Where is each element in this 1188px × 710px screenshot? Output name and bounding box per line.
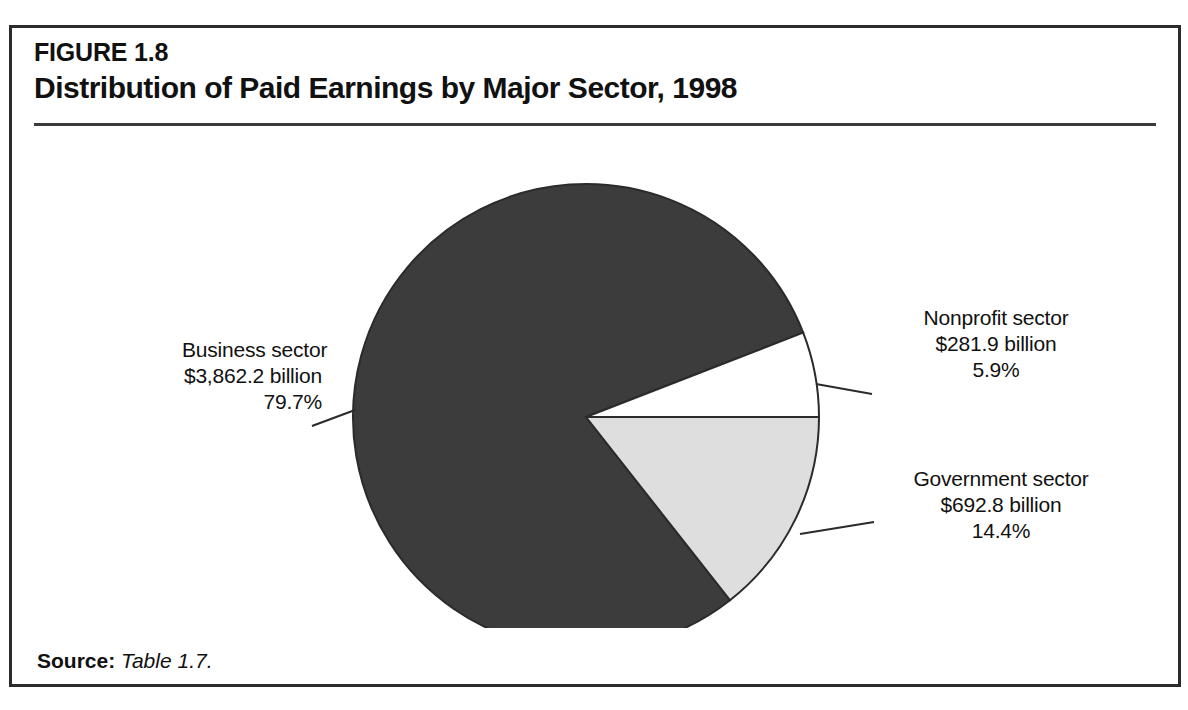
callout-business-sector: Business sector $3,862.2 billion 79.7% xyxy=(182,337,322,415)
callout-government-value: $692.8 billion xyxy=(881,492,1121,518)
callout-government-percent: 14.4% xyxy=(881,518,1121,544)
figure-frame: FIGURE 1.8 Distribution of Paid Earnings… xyxy=(9,25,1181,687)
source-label: Source: xyxy=(37,649,115,672)
title-divider-rule xyxy=(34,123,1156,126)
leader-line-government xyxy=(800,522,874,534)
callout-nonprofit-value: $281.9 billion xyxy=(881,331,1111,357)
callout-nonprofit-sector: Nonprofit sector $281.9 billion 5.9% xyxy=(881,305,1111,383)
pie-chart-area: Business sector $3,862.2 billion 79.7% N… xyxy=(12,128,1178,628)
figure-number: FIGURE 1.8 xyxy=(34,37,1154,68)
callout-business-value: $3,862.2 billion xyxy=(182,363,322,389)
figure-title: Distribution of Paid Earnings by Major S… xyxy=(34,69,1154,107)
source-line: Source: Table 1.7. xyxy=(37,648,213,674)
callout-business-name: Business sector xyxy=(182,337,322,363)
callout-nonprofit-percent: 5.9% xyxy=(881,357,1111,383)
callout-government-name: Government sector xyxy=(881,466,1121,492)
pie-slices-group xyxy=(353,184,819,628)
figure-container: FIGURE 1.8 Distribution of Paid Earnings… xyxy=(0,0,1188,710)
source-value: Table 1.7. xyxy=(121,649,212,672)
callout-government-sector: Government sector $692.8 billion 14.4% xyxy=(881,466,1121,544)
leader-line-nonprofit xyxy=(816,384,872,394)
figure-title-block: FIGURE 1.8 Distribution of Paid Earnings… xyxy=(34,37,1154,107)
callout-nonprofit-name: Nonprofit sector xyxy=(881,305,1111,331)
callout-business-percent: 79.7% xyxy=(182,389,322,415)
